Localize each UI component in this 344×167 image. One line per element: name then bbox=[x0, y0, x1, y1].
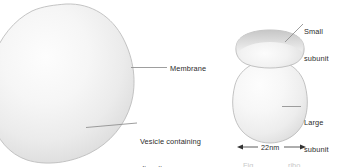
label-small-subunit-line1: Small bbox=[304, 27, 329, 36]
label-small-subunit-line2: subunit bbox=[304, 54, 329, 63]
label-membrane: Membrane bbox=[170, 64, 206, 73]
label-large-subunit-line2: subunit bbox=[304, 145, 329, 154]
ribosome-large-subunit bbox=[233, 60, 308, 143]
label-large-subunit-line1: Large bbox=[304, 118, 329, 127]
label-vesicle: Vesicle containing digestive enzymes bbox=[140, 119, 203, 167]
label-dimension-22nm: 22nm bbox=[261, 143, 279, 152]
label-vesicle-line1: Vesicle containing bbox=[140, 137, 203, 146]
cropped-caption-row: Fig ribo bbox=[0, 161, 344, 167]
label-small-subunit: Small subunit bbox=[304, 9, 329, 81]
cropped-caption-fragment-a: Fig bbox=[243, 161, 253, 167]
label-large-subunit: Large subunit bbox=[304, 100, 329, 167]
lysosome-blob bbox=[0, 4, 134, 163]
biology-diagram-figure: Membrane Vesicle containing digestive en… bbox=[0, 0, 344, 167]
cropped-caption-fragment-b: ribo bbox=[288, 161, 300, 167]
ribosome-small-subunit bbox=[236, 30, 304, 68]
